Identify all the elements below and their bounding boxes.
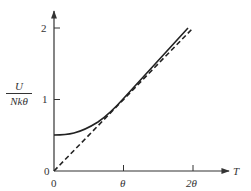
x-axis-label: T — [233, 165, 240, 177]
y-axis-label: U Nkθ — [4, 80, 34, 107]
y-tick-label-0: 0 — [44, 165, 50, 177]
y-tick-label-2: 2 — [41, 22, 47, 34]
y-tick-label-1: 1 — [42, 93, 48, 105]
y-label-numerator: U — [6, 80, 32, 94]
y-label-denominator: Nkθ — [4, 94, 34, 107]
series-solid-curve — [54, 28, 188, 135]
chart: 0 1 2 0 θ 2θ T — [0, 0, 251, 191]
x-tick-label-2theta: 2θ — [186, 177, 198, 189]
x-tick-label-0: 0 — [51, 177, 57, 189]
x-tick-label-theta: θ — [120, 177, 126, 189]
